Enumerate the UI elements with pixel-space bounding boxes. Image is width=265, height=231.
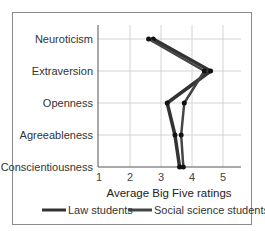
data-point [181,165,186,170]
x-tick-4: 4 [189,171,195,183]
data-point [179,133,184,138]
data-point [146,37,151,42]
x-axis-title: Average Big Five ratings [106,187,231,199]
chart: Neuroticism Extraversion Openness Agreea… [0,0,265,231]
category-label-agreeableness: Agreeableness [20,129,94,141]
category-label-openness: Openness [43,97,94,109]
category-label-neuroticism: Neuroticism [35,33,93,45]
x-tick-3: 3 [158,171,164,183]
category-label-extraversion: Extraversion [32,65,93,77]
category-label-conscientiousness: Conscientiousness [1,161,94,173]
data-point [165,101,170,106]
x-tick-1: 1 [96,171,102,183]
x-tick-5: 5 [220,171,226,183]
data-point [202,69,207,74]
data-point [208,69,213,74]
x-tick-2: 2 [127,171,133,183]
data-point [172,133,177,138]
data-point [182,101,187,106]
legend-label-law: Law students [68,204,133,216]
legend-label-social: Social science students [154,204,265,216]
